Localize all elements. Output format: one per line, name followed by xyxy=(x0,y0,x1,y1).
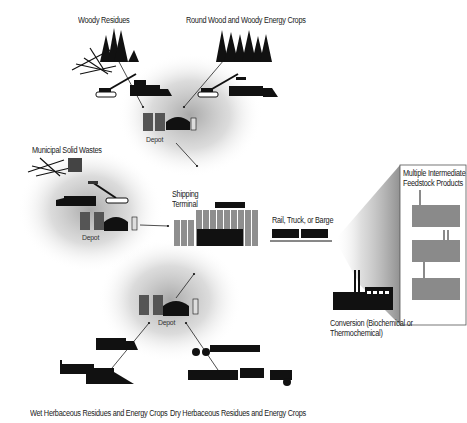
label-shipping-terminal-1: Shipping xyxy=(172,189,198,199)
dry-herbaceous-equipment-icon xyxy=(188,345,292,386)
intermediate-products-box xyxy=(400,165,466,325)
label-conversion-2: Thermochemical) xyxy=(330,328,383,338)
label-shipping-terminal-2: Terminal xyxy=(172,199,198,209)
label-depot-top: Depot xyxy=(146,135,163,145)
wet-herbaceous-equipment-icon xyxy=(60,338,138,384)
label-products-2: Feedstock Products xyxy=(403,178,463,188)
label-dry-herbaceous: Dry Herbaceous Residues and Energy Crops xyxy=(170,408,306,418)
label-woody-residues: Woody Residues xyxy=(78,15,130,25)
label-products-1: Multiple Intermediate xyxy=(403,168,465,178)
label-depot-left: Depot xyxy=(82,233,99,243)
biomass-supply-chain-diagram: Woody Residues Round Wood and Woody Ener… xyxy=(0,0,467,423)
diagram-artwork xyxy=(0,0,467,423)
label-msw: Municipal Solid Wastes xyxy=(32,145,102,155)
label-round-wood: Round Wood and Woody Energy Crops xyxy=(186,15,306,25)
label-depot-bottom: Depot xyxy=(158,318,175,328)
round-wood-truck-icon xyxy=(229,86,278,97)
label-wet-herbaceous: Wet Herbaceous Residues and Energy Crops xyxy=(30,408,167,418)
rail-car-icon xyxy=(270,229,332,241)
woody-residue-trees-icon xyxy=(72,28,139,74)
label-transport: Rail, Truck, or Barge xyxy=(272,215,333,225)
label-conversion-1: Conversion (Biochemical or xyxy=(330,318,413,328)
round-wood-trees-icon xyxy=(216,30,272,62)
